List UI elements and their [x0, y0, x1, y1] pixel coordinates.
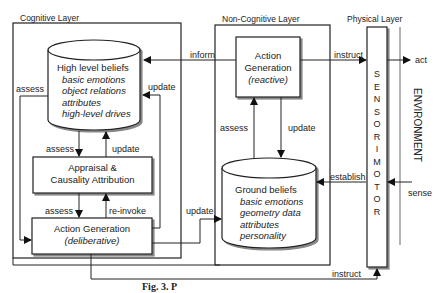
gb-item: geometry data: [235, 207, 303, 219]
letter: T: [372, 181, 382, 194]
edge-label-assess-nc: assess: [220, 123, 248, 133]
hlb-item: attributes: [57, 97, 131, 109]
gb-item: attributes: [235, 219, 303, 231]
hlb-item: high-level drives: [57, 108, 131, 120]
action-gen-reactive-line1: Action: [236, 50, 300, 62]
letter: O: [372, 193, 382, 206]
hlb-item: object relations: [57, 85, 131, 97]
action-gen-deliberative-subtitle: (deliberative): [32, 235, 152, 247]
edge-label-update-nc: update: [288, 123, 316, 133]
letter: M: [372, 156, 382, 169]
action-gen-deliberative-node: Action Generation (deliberative): [32, 223, 152, 247]
letter: O: [372, 168, 382, 181]
letter: S: [372, 68, 382, 81]
edge-label-reinvoke: re-invoke: [109, 206, 146, 216]
ground-beliefs-node: Ground beliefs basic emotions geometry d…: [235, 184, 303, 242]
edge-label-sense: sense: [408, 188, 432, 198]
edge-label-establish: establish: [330, 172, 366, 182]
appraisal-line1: Appraisal &: [33, 162, 152, 174]
action-gen-reactive-subtitle: (reactive): [236, 74, 300, 86]
edge-label-update-appraisal-hlb: update: [112, 144, 140, 154]
action-gen-deliberative-title: Action Generation: [32, 223, 152, 235]
edge-label-assess-appraisal-action: assess: [45, 206, 73, 216]
gb-item: personality: [235, 230, 303, 242]
action-gen-reactive-node: Action Generation (reactive): [236, 50, 300, 86]
high-level-beliefs-title: High level beliefs: [57, 62, 131, 74]
edge-label-update-to-ground: update: [186, 206, 214, 216]
letter: E: [372, 81, 382, 94]
edge-label-instruct-bottom: instruct: [332, 269, 361, 279]
figure-caption: Fig. 3. P: [142, 281, 177, 292]
high-level-beliefs-node: High level beliefs basic emotions object…: [57, 62, 131, 120]
cognitive-layer-title: Cognitive Layer: [20, 13, 79, 23]
edge-label-instruct-top: instruct: [334, 50, 363, 60]
edge-label-inform: inform: [190, 50, 215, 60]
physical-layer-title: Physical Layer: [347, 14, 402, 24]
edge-label-assess-hlb-appraisal: assess: [46, 144, 74, 154]
letter: O: [372, 118, 382, 131]
appraisal-line2: Causality Attribution: [33, 174, 152, 186]
ground-beliefs-title: Ground beliefs: [235, 184, 303, 196]
action-gen-reactive-line2: Generation: [236, 62, 300, 74]
environment-label: ENVIRONMENT: [412, 88, 423, 162]
appraisal-node: Appraisal & Causality Attribution: [33, 162, 152, 186]
letter: I: [372, 143, 382, 156]
letter: S: [372, 106, 382, 119]
edge-label-update-hlb: update: [148, 82, 176, 92]
letter: N: [372, 93, 382, 106]
edge-label-act: act: [415, 55, 427, 65]
gb-item: basic emotions: [235, 196, 303, 208]
hlb-item: basic emotions: [57, 74, 131, 86]
non-cognitive-layer-title: Non-Cognitive Layer: [222, 14, 299, 24]
letter: R: [372, 206, 382, 219]
sensorimotor-label: S E N S O R I M O T O R: [372, 68, 382, 218]
edge-label-assess-left: assess: [16, 84, 44, 94]
letter: R: [372, 131, 382, 144]
